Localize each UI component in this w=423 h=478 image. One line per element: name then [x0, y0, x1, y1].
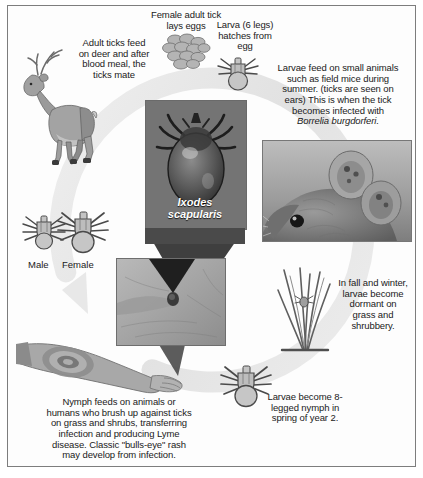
species-caption: Ixodes scapularis [148, 196, 242, 220]
larva-hatches-caption: Larva (6 legs) hatches from egg [205, 20, 285, 52]
larvae-feed-caption: Larvae feed on small animals such as fie… [258, 63, 418, 127]
species-caption-species: scapularis [148, 208, 242, 220]
male-tick-label: Male [28, 259, 49, 270]
larvae-feed-line-4: ears) This is when the tick [258, 95, 418, 106]
female-adult-tick-illustration [55, 208, 111, 258]
nymph-feeds-caption: Nymph feeds on animals or humans who bru… [14, 397, 224, 461]
grass-blades-with-tick-illustration [276, 266, 334, 352]
borrelia-species-name: Borrelia burgdorferi. [258, 116, 418, 127]
female-tick-label: Female [62, 259, 94, 270]
field-mouse-with-ticks-photograph [262, 140, 412, 242]
larvae-become-nymph-caption: Larvae become 8- legged nymph in spring … [258, 392, 352, 424]
nymph-feeds-line-4: infection and producing Lyme [14, 429, 224, 440]
tick-life-cycle-figure: Adult ticks feed on deer and after blood… [0, 0, 423, 478]
nymph-feeds-line-6: may develop from infection. [14, 450, 224, 461]
tick-embedded-in-skin-photograph [116, 258, 226, 346]
adult-feed-caption: Adult ticks feed on deer and after blood… [60, 38, 168, 81]
species-caption-genus: Ixodes [148, 196, 242, 208]
larva-tick-illustration [214, 52, 262, 96]
fall-winter-caption: In fall and winter, larvae become dorman… [330, 278, 416, 331]
